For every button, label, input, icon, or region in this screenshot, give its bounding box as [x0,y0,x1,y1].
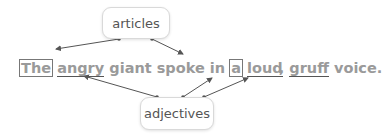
arrow-adjectives-angry [84,76,157,97]
word-the: The [20,60,52,76]
word-giant: giant [109,60,151,76]
adjectives-label: adjectives [144,106,210,121]
articles-label: articles [112,16,160,31]
word-loud: loud [247,60,283,77]
word-a: a [230,60,242,76]
example-sentence: The angry giant spoke in a loud, gruff v… [20,60,382,77]
word-gruff: gruff [289,60,329,77]
arrow-adjectives-gruff [204,78,248,97]
arrow-articles-a [152,39,183,54]
comma: , [279,60,285,76]
word-voice: voice. [334,60,382,76]
articles-label-box: articles [102,7,170,39]
word-spoke: spoke [157,60,205,76]
adjectives-label-box: adjectives [140,97,214,130]
word-in: in [210,60,225,76]
arrow-articles-the [56,39,119,49]
word-angry: angry [57,60,104,77]
arrow-adjectives-loud [183,78,212,97]
